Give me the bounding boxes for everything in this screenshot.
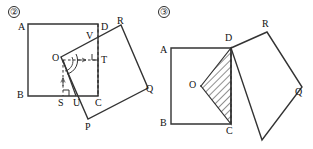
vertex-label-c-3: C [226, 126, 233, 136]
right-angle-marker-s [63, 90, 69, 96]
vertex-label-d: D [101, 22, 108, 32]
right-angle-marker-t [92, 54, 98, 60]
vertex-label-c: C [95, 98, 102, 108]
vertex-label-q-3: Q [295, 87, 302, 97]
vertex-label-b: B [17, 90, 24, 100]
vertex-label-q: Q [146, 84, 153, 94]
vertex-label-r-3: R [262, 19, 269, 29]
panel-3-number: ③ [158, 6, 170, 18]
figure-canvas: ② A D C B O R Q P V U S T ③ A D C B O R … [0, 0, 313, 149]
vertex-label-p: P [85, 122, 91, 132]
intersection-label-v: V [86, 31, 93, 41]
vertex-label-b-3: B [160, 118, 167, 128]
center-point-o-3 [200, 85, 202, 87]
foot-label-t: T [101, 55, 107, 65]
center-label-o: O [52, 53, 59, 63]
intersection-label-u: U [73, 98, 80, 108]
vertex-label-d-3: D [225, 33, 232, 43]
vertex-label-a: A [18, 22, 25, 32]
shaded-triangle-odc [201, 48, 231, 124]
vertex-label-r: R [117, 16, 124, 26]
vertex-label-a-3: A [160, 45, 167, 55]
rotated-square-drqp-outline [231, 32, 302, 140]
panel-2-number: ② [8, 6, 20, 18]
foot-label-s: S [58, 98, 64, 108]
center-label-o-3: O [189, 80, 196, 90]
